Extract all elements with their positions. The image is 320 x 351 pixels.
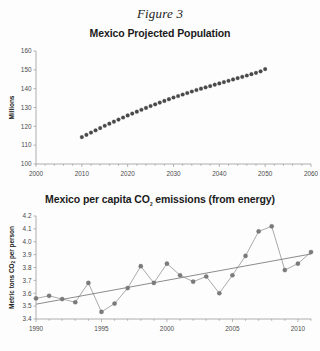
data-point — [98, 126, 102, 130]
data-point — [178, 273, 182, 277]
population-plot: 1001101201301401501602000201020202030204… — [0, 42, 320, 187]
x-tick-label: 2060 — [304, 170, 319, 177]
data-point — [139, 264, 143, 268]
data-point — [296, 262, 300, 266]
y-tick-label: 120 — [21, 123, 32, 130]
co2-chart: 3.43.53.63.73.83.94.04.14.21990199520002… — [0, 207, 320, 351]
y-tick-label: 4.0 — [23, 238, 32, 245]
y-axis-title: Millions — [8, 95, 15, 119]
data-point — [230, 273, 234, 277]
data-point — [283, 268, 287, 272]
y-axis-title: Metric tons CO2 per person — [8, 226, 16, 309]
x-tick-label: 2050 — [258, 170, 273, 177]
x-tick-label: 1995 — [94, 325, 109, 332]
y-axis-title-suffix: per person — [8, 226, 16, 261]
data-point — [80, 135, 84, 139]
data-point — [231, 78, 235, 82]
x-tick-label: 2040 — [212, 170, 227, 177]
data-point — [263, 67, 267, 71]
y-tick-label: 3.6 — [23, 290, 32, 297]
co2-title-suffix: emissions (from energy) — [152, 193, 274, 205]
data-point — [85, 133, 89, 137]
co2-chart-title: Mexico per capita CO2 emissions (from en… — [0, 193, 320, 207]
y-tick-label: 130 — [21, 104, 32, 111]
data-point — [213, 83, 217, 87]
data-point — [204, 274, 208, 278]
figure-page: Figure 3 Mexico Projected Population 100… — [0, 0, 320, 351]
y-tick-label: 160 — [21, 47, 32, 54]
data-point — [245, 74, 249, 78]
data-point — [191, 280, 195, 284]
data-point — [162, 99, 166, 103]
x-tick-label: 2020 — [121, 170, 136, 177]
axes — [36, 216, 311, 319]
x-tick-label: 2030 — [166, 170, 181, 177]
data-point — [240, 75, 244, 79]
data-point — [254, 71, 258, 75]
data-point — [243, 254, 247, 258]
co2-plot: 3.43.53.63.73.83.94.04.14.21990199520002… — [0, 207, 320, 351]
y-tick-label: 3.9 — [23, 251, 32, 258]
data-point — [181, 93, 185, 97]
data-point — [153, 102, 157, 106]
trendline — [36, 254, 311, 304]
data-point — [158, 101, 162, 105]
y-tick-label: 100 — [21, 160, 32, 167]
data-point — [126, 286, 130, 290]
population-chart: 1001101201301401501602000201020202030204… — [0, 42, 320, 187]
data-point — [217, 291, 221, 295]
data-point — [236, 76, 240, 80]
y-tick-label: 150 — [21, 66, 32, 73]
y-tick-label: 3.5 — [23, 302, 32, 309]
data-point — [135, 110, 139, 114]
y-tick-label: 3.7 — [23, 277, 32, 284]
y-tick-label: 140 — [21, 85, 32, 92]
data-point — [103, 124, 107, 128]
data-point — [149, 104, 153, 108]
population-chart-title: Mexico Projected Population — [0, 27, 320, 39]
data-point — [121, 116, 125, 120]
data-point — [217, 82, 221, 86]
x-tick-label: 2010 — [291, 325, 306, 332]
x-tick-label: 2000 — [29, 170, 44, 177]
x-tick-label: 2000 — [160, 325, 175, 332]
data-point — [257, 229, 261, 233]
data-point — [195, 88, 199, 92]
data-point — [89, 131, 93, 135]
data-point — [172, 96, 176, 100]
y-tick-label: 3.4 — [23, 315, 32, 322]
data-point — [47, 294, 51, 298]
data-point — [144, 106, 148, 110]
x-tick-label: 2010 — [75, 170, 90, 177]
data-point — [199, 87, 203, 91]
data-point — [60, 297, 64, 301]
data-point — [208, 84, 212, 88]
y-tick-label: 4.1 — [23, 225, 32, 232]
data-point — [94, 128, 98, 132]
data-point — [112, 120, 116, 124]
data-point — [112, 301, 116, 305]
data-point — [86, 281, 90, 285]
data-point — [126, 114, 130, 118]
axes — [36, 51, 311, 164]
data-point — [185, 91, 189, 95]
data-point — [270, 224, 274, 228]
data-point — [34, 296, 38, 300]
data-point — [259, 69, 263, 73]
data-point — [176, 94, 180, 98]
data-point — [99, 310, 103, 314]
co2-title-prefix: Mexico per capita CO — [45, 193, 150, 205]
data-point — [117, 118, 121, 122]
x-tick-label: 2005 — [225, 325, 240, 332]
y-tick-label: 4.2 — [23, 212, 32, 219]
data-point — [309, 250, 313, 254]
data-point — [222, 80, 226, 84]
data-point — [152, 281, 156, 285]
data-point — [204, 85, 208, 89]
series-polyline — [36, 226, 311, 312]
data-point — [167, 97, 171, 101]
data-point — [73, 300, 77, 304]
y-tick-label: 110 — [21, 141, 32, 148]
y-tick-label: 3.8 — [23, 264, 32, 271]
figure-caption: Figure 3 — [0, 6, 320, 22]
